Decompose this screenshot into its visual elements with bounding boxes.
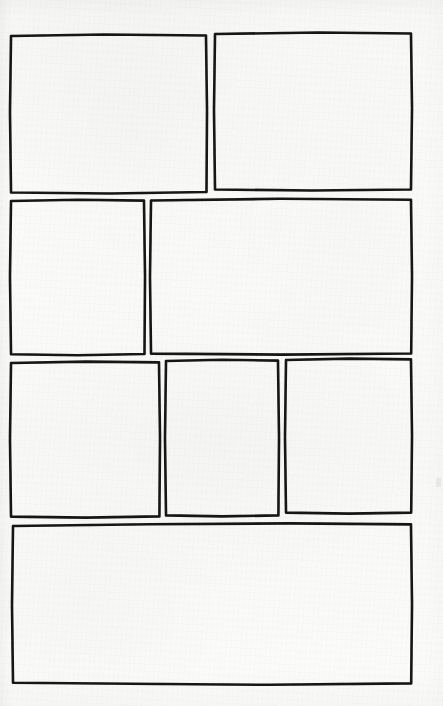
panel-4[interactable]	[150, 199, 412, 354]
panel-3[interactable]	[10, 200, 145, 355]
panel-5[interactable]	[10, 362, 160, 517]
panel-6[interactable]	[165, 360, 279, 515]
panel-1[interactable]	[10, 35, 207, 193]
margin-smudge-right-icon	[436, 478, 441, 487]
panel-8[interactable]	[12, 525, 412, 684]
panel-2[interactable]	[214, 33, 412, 190]
comic-page	[0, 0, 443, 706]
panel-7[interactable]	[285, 359, 412, 512]
